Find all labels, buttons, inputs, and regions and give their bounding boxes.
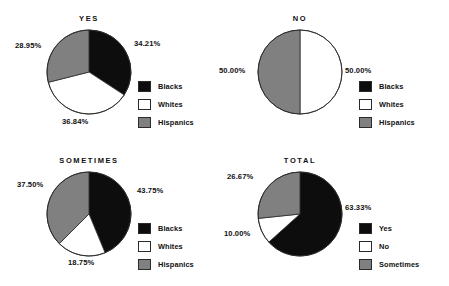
legend-swatch-icon-yes — [359, 223, 372, 234]
pie-panel-total: TOTAL63.33%10.00%26.67%YesNoSometimes — [0, 0, 449, 286]
legend-label-sometimes: Sometimes — [379, 260, 419, 269]
legend-swatch-icon-no — [359, 241, 372, 252]
pie-slice-total-sometimes — [258, 172, 300, 218]
legend-row-total-sometimes[interactable]: Sometimes — [359, 257, 419, 272]
legend-row-total-no[interactable]: No — [359, 239, 419, 254]
legend-label-no: No — [379, 242, 389, 251]
legend-label-yes: Yes — [379, 224, 392, 233]
pct-label-total-0: 63.33% — [345, 203, 371, 212]
pie-chart-figure: YES34.21%36.84%28.95%BlacksWhitesHispani… — [0, 0, 449, 286]
pct-label-total-1: 10.00% — [224, 229, 250, 238]
legend-swatch-icon-sometimes — [359, 259, 372, 270]
pct-label-total-2: 26.67% — [227, 172, 253, 181]
legend-total: YesNoSometimes — [359, 221, 419, 275]
legend-row-total-yes[interactable]: Yes — [359, 221, 419, 236]
